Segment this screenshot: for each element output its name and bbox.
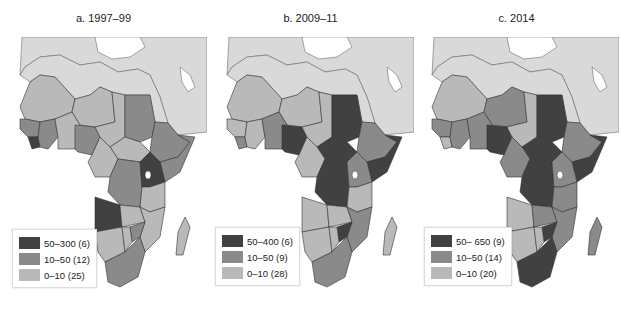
legend-item-high: 50– 650 (9)	[431, 233, 505, 249]
legend-item-low: 0–10 (28)	[222, 265, 293, 281]
map-legend: 50– 650 (9) 10–50 (14) 0–10 (20)	[424, 227, 512, 286]
panel-title: b. 2009–11	[207, 12, 414, 24]
legend-item-mid: 10–50 (9)	[222, 249, 293, 265]
legend-item-high: 50–300 (6)	[19, 235, 90, 251]
legend-label: 10–50 (12)	[44, 254, 90, 265]
legend-item-low: 0–10 (25)	[19, 267, 90, 283]
legend-swatch	[431, 267, 452, 279]
legend-item-low: 0–10 (20)	[431, 265, 505, 281]
legend-swatch	[222, 251, 243, 263]
legend-swatch	[222, 235, 243, 247]
legend-label: 0–10 (25)	[44, 270, 85, 281]
legend-label: 10–50 (9)	[247, 252, 288, 263]
map-panel-c: c. 2014 50– 650 (9)	[412, 0, 621, 309]
legend-swatch	[222, 267, 243, 279]
legend-swatch	[19, 269, 40, 281]
legend-label: 50– 650 (9)	[456, 236, 505, 247]
legend-label: 50–400 (6)	[247, 236, 293, 247]
legend-item-mid: 10–50 (12)	[19, 251, 90, 267]
map-legend: 50–300 (6) 10–50 (12) 0–10 (25)	[12, 229, 97, 288]
legend-item-mid: 10–50 (14)	[431, 249, 505, 265]
map-panel-a: a. 1997–99	[0, 0, 207, 309]
legend-label: 10–50 (14)	[456, 252, 502, 263]
legend-label: 0–10 (20)	[456, 268, 497, 279]
map-legend: 50–400 (6) 10–50 (9) 0–10 (28)	[215, 227, 300, 286]
legend-swatch	[431, 251, 452, 263]
map-panel-b: b. 2009–11 50–400 (6)	[207, 0, 414, 309]
legend-label: 50–300 (6)	[44, 238, 90, 249]
legend-item-high: 50–400 (6)	[222, 233, 293, 249]
legend-swatch	[431, 235, 452, 247]
panel-title: a. 1997–99	[0, 12, 207, 24]
panel-title: c. 2014	[412, 12, 621, 24]
legend-swatch	[19, 253, 40, 265]
legend-label: 0–10 (28)	[247, 268, 288, 279]
legend-swatch	[19, 237, 40, 249]
